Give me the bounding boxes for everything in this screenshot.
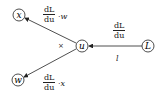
computation-graph: x w u L [0, 0, 161, 101]
grad-label-x-suffix: ·w [58, 12, 67, 21]
fraction-denominator: du [113, 31, 125, 40]
grad-label-w-suffix: ·x [58, 79, 65, 88]
grad-label-x-fraction: dL du [43, 5, 55, 24]
node-u: u [76, 40, 88, 52]
grad-label-u-fraction: dL du [113, 21, 125, 40]
svg-text:u: u [79, 41, 85, 51]
fraction-numerator: dL [43, 73, 55, 83]
svg-text:x: x [16, 10, 21, 20]
fraction-numerator: dL [43, 5, 55, 15]
fraction-denominator: du [43, 83, 55, 92]
grad-label-w-fraction: dL du [43, 73, 55, 92]
node-L: L [142, 40, 154, 52]
svg-text:L: L [144, 41, 151, 51]
edge-label-l: l [116, 54, 119, 63]
node-x: x [13, 9, 25, 21]
fraction-denominator: du [43, 15, 55, 24]
svg-text:w: w [14, 75, 22, 85]
multiply-operator: × [58, 42, 64, 50]
node-w: w [12, 74, 24, 86]
fraction-numerator: dL [113, 21, 125, 31]
